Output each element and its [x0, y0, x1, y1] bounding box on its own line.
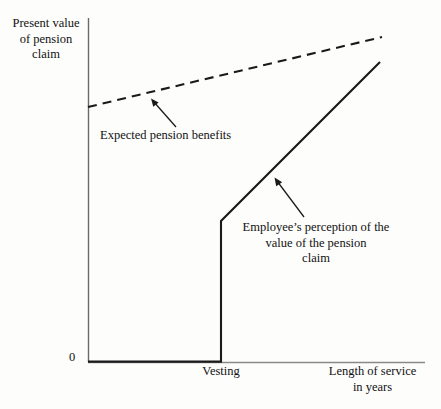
y-axis-title: Present value of pension claim [6, 16, 86, 63]
employee-perception-arrow [275, 178, 305, 218]
pension-value-chart: Present value of pension claim Length of… [0, 0, 441, 409]
employee-perception-label: Employee’s perception of the value of th… [233, 220, 399, 267]
expected-pension-benefits-arrow [151, 99, 176, 128]
x-axis-title: Length of service in years [320, 364, 425, 395]
origin-label: 0 [69, 350, 75, 365]
employee-perception-line [88, 62, 380, 362]
expected-pension-benefits-line [88, 37, 382, 107]
expected-pension-benefits-label: Expected pension benefits [100, 128, 260, 144]
x-tick-label-vesting: Vesting [181, 364, 261, 379]
